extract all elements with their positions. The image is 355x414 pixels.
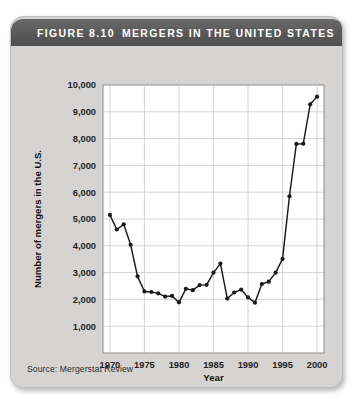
x-axis-title: Year — [203, 372, 224, 383]
y-tick-label: 5,000 — [73, 214, 96, 224]
data-point-marker — [211, 270, 215, 274]
data-point-marker — [198, 283, 202, 287]
data-point-marker — [142, 289, 146, 293]
data-point-marker — [225, 296, 229, 300]
data-point-marker — [149, 290, 153, 294]
y-tick-label: 1,000 — [73, 322, 96, 332]
data-point-marker — [184, 287, 188, 291]
data-point-marker — [170, 294, 174, 298]
figure-title-bar: FIGURE 8.10 MERGERS IN THE UNITED STATES — [11, 19, 343, 46]
data-point-marker — [156, 291, 160, 295]
y-axis-title: Number of mergers in the U.S. — [32, 150, 43, 288]
y-axis-tick-labels: 1,0002,0003,0004,0005,0006,0007,0008,000… — [68, 80, 96, 331]
data-point-marker — [260, 282, 264, 286]
source-note: Source: Mergerstat Review — [27, 364, 133, 374]
figure-card: FIGURE 8.10 MERGERS IN THE UNITED STATES… — [10, 16, 343, 388]
x-tick-label: 1995 — [272, 360, 293, 370]
x-tick-label: 2000 — [307, 360, 328, 370]
data-point-marker — [129, 243, 133, 247]
data-point-marker — [135, 274, 139, 278]
data-point-marker — [163, 294, 167, 298]
y-tick-label: 8,000 — [73, 134, 96, 144]
gridlines — [103, 85, 324, 353]
data-point-marker — [274, 271, 278, 275]
data-point-marker — [280, 257, 284, 261]
y-tick-label: 10,000 — [68, 80, 96, 90]
x-tick-label: 1980 — [169, 360, 190, 370]
data-point-marker — [301, 142, 305, 146]
mergers-line-chart: 1,0002,0003,0004,0005,0006,0007,0008,000… — [11, 46, 343, 388]
figure-number-label: FIGURE 8.10 — [37, 27, 115, 39]
y-tick-label: 7,000 — [73, 161, 96, 171]
data-point-marker — [287, 194, 291, 198]
data-point-marker — [315, 95, 319, 99]
x-axis-tick-labels: 1970197519801985199019952000 — [100, 360, 328, 370]
y-tick-label: 9,000 — [73, 107, 96, 117]
data-point-marker — [177, 300, 181, 304]
data-point-marker — [239, 287, 243, 291]
figure-title: MERGERS IN THE UNITED STATES — [122, 27, 335, 39]
y-tick-label: 3,000 — [73, 268, 96, 278]
data-point-marker — [267, 280, 271, 284]
plot-area-container: 1,0002,0003,0004,0005,0006,0007,0008,000… — [11, 46, 343, 388]
y-tick-label: 6,000 — [73, 188, 96, 198]
data-point-marker — [191, 288, 195, 292]
data-point-marker — [204, 283, 208, 287]
data-point-marker — [308, 102, 312, 106]
data-point-marker — [253, 301, 257, 305]
data-point-marker — [108, 213, 112, 217]
data-point-marker — [115, 227, 119, 231]
y-tick-label: 2,000 — [73, 295, 96, 305]
y-tick-label: 4,000 — [73, 241, 96, 251]
x-tick-label: 1975 — [134, 360, 155, 370]
data-point-marker — [246, 295, 250, 299]
data-point-marker — [122, 222, 126, 226]
data-point-marker — [232, 290, 236, 294]
data-point-marker — [294, 142, 298, 146]
x-tick-label: 1985 — [203, 360, 224, 370]
data-point-marker — [218, 262, 222, 266]
x-tick-label: 1990 — [238, 360, 259, 370]
